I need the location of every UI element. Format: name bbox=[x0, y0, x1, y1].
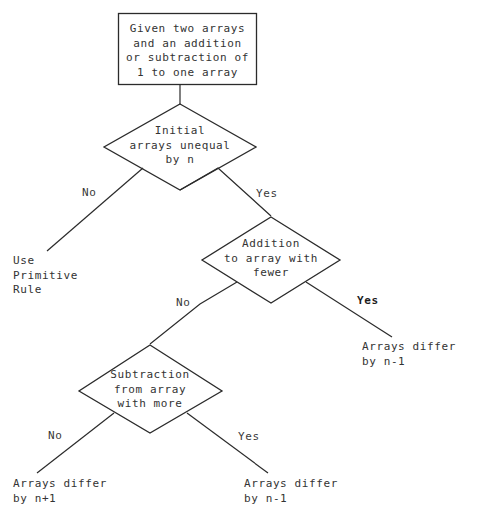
outcome-differ-n-minus-1-bottom-text: Arrays differ by n-1 bbox=[244, 477, 338, 506]
decision-subtraction-more-text: Subtraction from array with more bbox=[75, 368, 225, 412]
decision-initial-unequal-text: Initial arrays unequal by n bbox=[105, 124, 255, 168]
edge-label-decision1-yes: Yes bbox=[256, 187, 278, 200]
start-box-text: Given two arrays and an addition or subt… bbox=[122, 22, 253, 80]
edge-label-decision2-yes: Yes bbox=[357, 294, 379, 307]
edge-decision1-no bbox=[47, 168, 143, 251]
outcome-primitive-rule-text: Use Primitive Rule bbox=[13, 254, 78, 298]
edge-label-decision3-yes: Yes bbox=[238, 430, 260, 443]
edge-decision2-yes bbox=[306, 282, 392, 337]
outcome-differ-n-minus-1-right-text: Arrays differ by n-1 bbox=[362, 340, 456, 369]
edge-decision2-no bbox=[150, 282, 237, 344]
edge-decision3-no bbox=[37, 413, 114, 473]
edge-label-decision1-no: No bbox=[82, 186, 96, 199]
flowchart-canvas: Given two arrays and an addition or subt… bbox=[0, 0, 485, 518]
decision-addition-fewer-text: Addition to array with fewer bbox=[196, 237, 346, 281]
edge-label-decision2-no: No bbox=[176, 296, 190, 309]
edge-decision3-yes bbox=[187, 413, 268, 473]
edge-label-decision3-no: No bbox=[48, 429, 62, 442]
outcome-differ-n-plus-1-text: Arrays differ by n+1 bbox=[13, 477, 107, 506]
